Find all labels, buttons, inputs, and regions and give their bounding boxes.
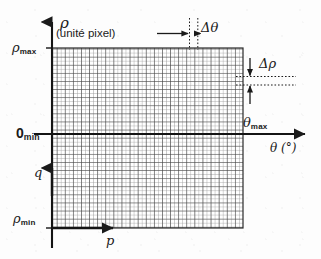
rho-min-symbol: ρ [13,211,21,226]
delta-rho-label: Δρ [259,57,276,70]
rho-min-subscript: min [21,218,36,227]
row-index-label: q [34,166,42,179]
theta-max-symbol: θ [243,115,251,130]
accumulator-grid [52,48,243,228]
delta-theta-callout [157,18,200,50]
rho-max-label: ρmax [12,41,36,56]
hough-accumulator-figure: ρ (unité pixel) ρmax 0min ρmin q p θmax … [0,0,321,259]
figure-canvas [0,0,321,259]
rho-min-label: ρmin [13,212,36,227]
rho-origin-label: 0min [16,126,40,142]
theta-axis-unit-label: θ (°) [270,142,296,154]
delta-theta-label: Δθ [201,21,218,34]
column-index-label: p [106,234,114,247]
rho-max-symbol: ρ [12,40,20,55]
theta-max-subscript: max [251,122,268,131]
rho-origin-symbol: 0 [16,125,24,141]
theta-max-label: θmax [243,116,268,131]
rho-origin-subscript: min [24,132,40,142]
rho-max-subscript: max [20,47,37,56]
rho-axis-unit-label: (unité pixel) [56,28,115,40]
